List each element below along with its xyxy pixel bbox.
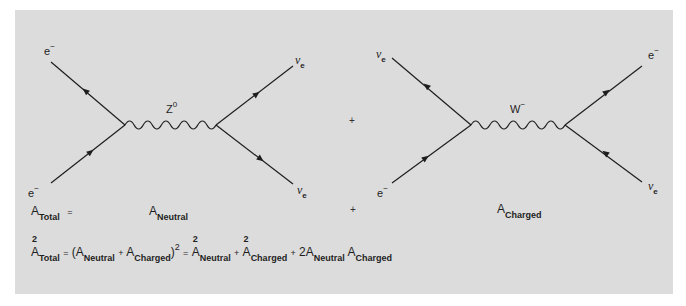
coefficient: 2 (299, 245, 306, 259)
arrow-icon (422, 81, 431, 90)
amplitude-subscript: Charged (134, 253, 171, 263)
particle-flavor: e (300, 61, 304, 70)
amplitude-symbol: A (306, 245, 314, 259)
equation-total-amplitude: ATotal = (31, 204, 72, 218)
amplitude-subscript: Neutral (314, 253, 345, 263)
amplitude-symbol: A (126, 245, 134, 259)
amplitude-subscript: Charged (505, 210, 542, 220)
amplitude-symbol: A (31, 245, 39, 259)
electron-line-top-left (51, 62, 125, 125)
amplitude-subscript: Charged (356, 253, 393, 263)
particle-label-neutrino-top-right: νe (295, 54, 305, 66)
plus-sign-amplitudes: + (350, 204, 356, 215)
boson-label-w-minus: W− (510, 104, 525, 115)
amplitude-subscript: Neutral (157, 212, 188, 222)
amplitude-symbol: A (347, 245, 355, 259)
plus-sign: + (290, 248, 295, 258)
amplitude-symbol: A (149, 204, 157, 218)
amplitude-subscript: Charged (251, 253, 288, 263)
plus-sign: + (118, 248, 123, 258)
equals-sign: = (183, 248, 188, 258)
particle-flavor: e (381, 55, 385, 64)
particle-flavor: e (302, 191, 306, 200)
electron-line-bottom-left (392, 125, 471, 183)
amplitude-symbol: A (243, 245, 251, 259)
exponent: 2 (193, 234, 198, 244)
equals-sign: = (63, 248, 68, 258)
amplitude-subscript: Total (39, 253, 60, 263)
plus-sign: + (234, 248, 239, 258)
amplitude-subscript: Total (39, 212, 60, 222)
exponent: 2 (32, 234, 37, 244)
neutrino-line-top-left (392, 58, 471, 125)
particle-label-electron-bottom-left: e− (28, 188, 39, 199)
particle-flavor: e (653, 187, 657, 196)
particle-label-neutrino-bottom-right: νe (297, 184, 307, 196)
neutrino-line-bottom-right (565, 125, 642, 182)
boson-charge: 0 (173, 100, 177, 109)
electron-line-top-right (565, 66, 642, 125)
amplitude-symbol: A (192, 245, 200, 259)
amplitude-neutral-label: ANeutral (149, 204, 188, 218)
particle-label-electron-bottom-left: e− (377, 188, 388, 199)
plus-sign-diagrams: + (349, 115, 355, 126)
amplitude-symbol: A (497, 202, 505, 216)
boson-symbol: Z (166, 103, 173, 115)
w-boson-wavy-line (471, 121, 565, 129)
particle-charge: − (50, 42, 55, 51)
neutrino-line-bottom-right (216, 125, 293, 184)
amplitude-charged-label: ACharged (497, 202, 542, 216)
boson-charge: − (520, 100, 525, 109)
amplitude-subscript: Neutral (84, 253, 115, 263)
exponent: 2 (244, 234, 249, 244)
amplitude-symbol: A (31, 204, 39, 218)
particle-label-neutrino-top-left: νe (376, 48, 386, 60)
particle-label-neutrino-bottom-right: νe (648, 180, 658, 192)
boson-label-z0: Z0 (166, 104, 177, 115)
equals-sign: = (67, 207, 72, 217)
exponent: 2 (175, 242, 180, 252)
amplitude-symbol: A (76, 245, 84, 259)
particle-charge: − (383, 184, 388, 193)
boson-symbol: W (510, 103, 520, 115)
particle-charge: − (34, 184, 39, 193)
particle-charge: − (654, 46, 659, 55)
z0-boson-wavy-line (125, 121, 216, 129)
particle-label-electron-top-right: e− (648, 50, 659, 61)
amplitude-subscript: Neutral (200, 253, 231, 263)
equation-total-squared: A2Total = (ANeutral + ACharged)2 = A2Neu… (31, 245, 392, 259)
particle-label-electron-top-left: e− (44, 46, 55, 57)
